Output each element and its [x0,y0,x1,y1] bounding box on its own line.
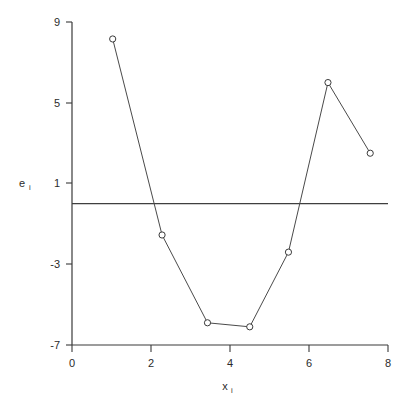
x-axis-title-text: x [222,380,228,392]
y-tick-label: 5 [54,97,60,109]
residual-series-line [113,39,371,327]
residual-plot-figure: 9 5 1 -3 -7 0 2 4 6 8 e [0,0,403,411]
x-tick-label: 8 [385,357,391,369]
x-axis-title-subscript: i [231,386,233,395]
x-tick-label: 2 [148,357,154,369]
y-tick-label: 9 [54,16,60,28]
x-tick-label: 0 [69,357,75,369]
data-point-marker [110,36,116,42]
y-tick-label: -7 [50,339,60,351]
x-tick-label: 6 [306,357,312,369]
chart-canvas: 9 5 1 -3 -7 0 2 4 6 8 e [0,0,403,411]
data-point-marker [285,249,291,255]
x-axis-tick-labels: 0 2 4 6 8 [69,357,391,369]
y-axis-title-subscript: i [29,183,31,192]
data-point-marker [159,232,165,238]
x-axis-title: x i [222,380,233,395]
y-tick-label: -3 [50,258,60,270]
data-point-marker [247,324,253,330]
y-axis-title: e i [19,177,31,192]
y-axis-title-text: e [19,177,25,189]
y-axis-tick-labels: 9 5 1 -3 -7 [50,16,60,351]
data-point-marker [367,150,373,156]
x-axis-ticks [72,345,388,352]
y-tick-label: 1 [54,177,60,189]
y-axis-ticks [66,22,72,345]
data-point-marker [204,320,210,326]
x-tick-label: 4 [227,357,233,369]
data-point-marker [325,79,331,85]
